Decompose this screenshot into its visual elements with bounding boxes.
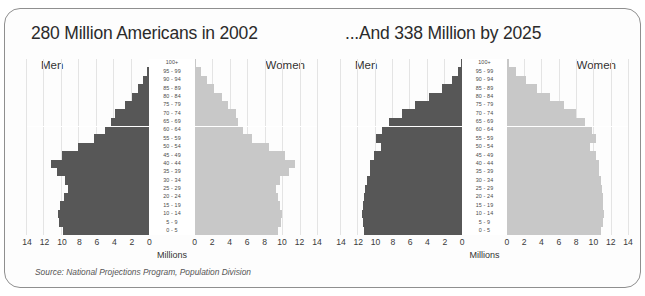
pyramid-bar — [362, 210, 462, 218]
axis-tick: 14 — [623, 237, 633, 247]
age-band-label: 25 - 29 — [476, 185, 493, 193]
pyramid-bar — [507, 218, 603, 226]
age-band-label: 5 - 9 — [166, 218, 177, 226]
pyramid-row — [195, 168, 317, 176]
pyramid-bar — [452, 76, 462, 84]
age-band-label: 45 - 49 — [163, 151, 180, 159]
pyramid-row — [507, 101, 628, 109]
pyramid-bar — [132, 93, 149, 101]
pyramid-bar — [507, 134, 596, 142]
age-divider-rule — [195, 126, 317, 127]
women-half — [507, 59, 628, 235]
pyramid-bar — [111, 118, 149, 126]
age-band-label: 95 - 99 — [163, 67, 180, 75]
pyramid-bar — [376, 134, 462, 142]
men-half — [27, 59, 149, 235]
x-axis: 1412108642002468101214 — [341, 237, 628, 250]
pyramid-row — [507, 118, 628, 126]
pyramid-bar — [374, 151, 462, 159]
pyramid-bar — [115, 109, 149, 117]
pyramid-row — [341, 168, 462, 176]
pyramid-bar — [94, 134, 149, 142]
age-divider-rule — [341, 126, 462, 127]
axis-tick: 12 — [40, 237, 50, 247]
age-band-label: 50 - 54 — [163, 143, 180, 151]
axis-tick: 8 — [77, 237, 82, 247]
pyramid-row — [341, 160, 462, 168]
pyramid-row — [507, 193, 628, 201]
age-band-label: 10 - 14 — [163, 210, 180, 218]
pyramid-bar — [195, 227, 278, 235]
pyramid-row — [27, 143, 149, 151]
age-band-label: 30 - 34 — [163, 176, 180, 184]
women-bars — [507, 59, 628, 235]
pyramid-bar — [195, 168, 289, 176]
pyramid-bar — [507, 126, 592, 134]
axis-title: Millions — [327, 250, 642, 260]
pyramid-row — [341, 59, 462, 67]
pyramid-row — [341, 201, 462, 209]
pyramid-bar — [78, 143, 150, 151]
pyramid-bar — [105, 126, 150, 134]
pyramid-row — [195, 201, 317, 209]
women-half — [195, 59, 317, 235]
pyramid-bar — [195, 126, 243, 134]
age-band-label: 25 - 29 — [163, 185, 180, 193]
axis-tick: 0 — [504, 237, 509, 247]
pyramid-bar — [64, 193, 150, 201]
pyramid-bar — [195, 160, 296, 168]
axis-tick: 4 — [112, 237, 117, 247]
pyramid-bar — [507, 151, 596, 159]
axis-tick: 8 — [262, 237, 267, 247]
pyramid-bar — [507, 193, 603, 201]
pyramid-row — [507, 227, 628, 235]
axis-tick: 0 — [460, 237, 465, 247]
pyramid-bar — [195, 134, 253, 142]
figure-frame: 280 Million Americans in 2002 Men Women … — [4, 8, 641, 288]
pyramid-row — [507, 134, 628, 142]
pyramid-bar — [363, 218, 462, 226]
pyramid-bar — [429, 93, 462, 101]
pyramid-row — [341, 134, 462, 142]
pyramid-bar — [195, 84, 214, 92]
age-band-label: 20 - 24 — [476, 193, 493, 201]
source-note: Source: National Projections Program, Po… — [35, 267, 251, 277]
axis-tick: 6 — [245, 237, 250, 247]
men-bars — [341, 59, 462, 235]
age-label-column: 100+95 - 9990 - 9485 - 8980 - 8475 - 797… — [462, 59, 507, 235]
pyramid-bar — [195, 151, 285, 159]
pyramid-row — [195, 185, 317, 193]
pyramid-bar — [68, 185, 149, 193]
pyramid-bar — [381, 143, 462, 151]
men-half — [341, 59, 462, 235]
women-bars — [195, 59, 317, 235]
age-band-label: 85 - 89 — [163, 84, 180, 92]
axis-tick: 14 — [22, 237, 32, 247]
axis-tick: 6 — [408, 237, 413, 247]
chart-title: 280 Million Americans in 2002 — [31, 23, 258, 44]
x-axis: 1412108642002468101214 — [27, 237, 317, 250]
axis-tick: 2 — [442, 237, 447, 247]
age-band-label: 90 - 94 — [476, 76, 493, 84]
axis-tick: 10 — [371, 237, 381, 247]
age-band-label: 90 - 94 — [163, 76, 180, 84]
axis-title: Millions — [13, 250, 331, 260]
pyramid-bar — [402, 109, 463, 117]
age-band-label: 100+ — [478, 59, 491, 67]
age-band-label: 35 - 39 — [476, 168, 493, 176]
pyramid-row — [507, 93, 628, 101]
pyramid-row — [195, 93, 317, 101]
pyramid-bar — [507, 67, 517, 75]
pyramid-row — [341, 185, 462, 193]
pyramid-row — [195, 218, 317, 226]
pyramid-row — [27, 201, 149, 209]
axis-tick: 2 — [210, 237, 215, 247]
pyramid-row — [507, 126, 628, 134]
axis-tick: 2 — [130, 237, 135, 247]
pyramid-bar — [59, 218, 149, 226]
pyramid-bar — [195, 93, 222, 101]
age-band-label: 70 - 74 — [163, 109, 180, 117]
age-band-label: 100+ — [166, 59, 179, 67]
pyramid-bar — [195, 193, 278, 201]
pyramid-row — [195, 59, 317, 67]
